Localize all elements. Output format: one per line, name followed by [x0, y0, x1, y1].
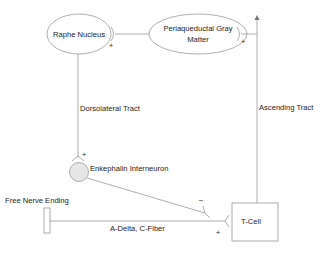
dorsolateral-sign: + — [82, 150, 87, 159]
raphe-nucleus-node: Raphe Nucleus — [47, 14, 111, 54]
fiber-to-tcell-sign: + — [216, 228, 221, 237]
enkephalin-interneuron-label: Enkephalin Interneuron — [90, 164, 169, 173]
pain-pathway-diagram: Raphe Nucleus + Periaqueductal Gray Matt… — [0, 0, 328, 257]
pag-label-line1: Periaqueductal Gray — [163, 24, 232, 33]
enkephalin-synapse-icon — [203, 206, 210, 218]
pag-to-ascending-sign: + — [241, 37, 246, 46]
enkephalin-interneuron-node: Enkephalin Interneuron — [70, 163, 169, 182]
fiber-label: A-Delta, C-Fiber — [110, 224, 165, 233]
t-cell-label: T-Cell — [241, 217, 261, 226]
raphe-nucleus-label: Raphe Nucleus — [53, 30, 105, 39]
ascending-tract-label: Ascending Tract — [259, 103, 314, 112]
ascending-arrow-icon — [255, 15, 260, 20]
pag-label-line2: Matter — [187, 35, 209, 44]
enkephalin-to-tcell-connector — [87, 178, 205, 213]
periaqueductal-gray-node: Periaqueductal Gray Matter — [149, 14, 247, 54]
enkephalin-to-tcell-sign: − — [199, 196, 204, 205]
dorsolateral-tract-label: Dorsolateral Tract — [80, 104, 141, 113]
fiber-synapse-icon — [225, 215, 229, 227]
t-cell-node: T-Cell — [232, 203, 278, 241]
free-nerve-ending-node: Free Nerve Ending — [5, 196, 69, 233]
raphe-to-pag-sign: + — [109, 41, 114, 50]
free-nerve-ending-label: Free Nerve Ending — [5, 196, 69, 205]
